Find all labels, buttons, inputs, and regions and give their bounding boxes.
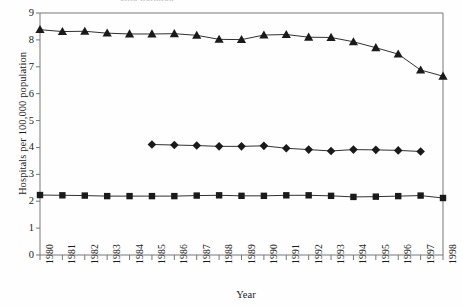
square-series-marker	[395, 193, 401, 199]
square-series-marker	[59, 192, 65, 198]
square-series-marker	[328, 193, 334, 199]
triangle-series-marker	[282, 30, 291, 38]
diamond-series-marker	[215, 142, 224, 151]
triangle-series-marker	[35, 25, 44, 33]
square-series-marker	[261, 193, 267, 199]
triangle-series-marker	[170, 29, 179, 37]
square-series-marker	[440, 195, 446, 201]
triangle-series-marker	[259, 30, 268, 38]
diamond-series-marker	[372, 146, 381, 155]
diamond-series-marker	[394, 146, 403, 155]
diamond-series-marker	[282, 144, 291, 153]
square-series-marker	[305, 192, 311, 198]
square-series-marker	[350, 194, 356, 200]
triangle-series-marker	[80, 27, 89, 35]
diamond-series-marker	[416, 147, 425, 156]
diamond-series-marker	[237, 142, 246, 151]
diamond-series-marker	[349, 145, 358, 154]
square-series-marker	[104, 193, 110, 199]
diamond-series-marker	[304, 145, 313, 154]
square-series-marker	[283, 192, 289, 198]
square-series-marker	[373, 193, 379, 199]
square-series-marker	[37, 192, 43, 198]
square-series-marker	[194, 192, 200, 198]
square-series-marker	[126, 193, 132, 199]
triangle-series-marker	[326, 33, 335, 41]
square-series-marker	[216, 192, 222, 198]
square-series-marker	[171, 193, 177, 199]
square-series-marker	[417, 192, 423, 198]
diamond-series-marker	[260, 142, 269, 151]
square-series-marker	[149, 193, 155, 199]
square-series-marker	[82, 192, 88, 198]
diamond-series-marker	[148, 140, 157, 149]
diamond-series-marker	[170, 141, 179, 150]
square-series-marker	[238, 193, 244, 199]
diamond-series-marker	[192, 141, 201, 150]
chart-figure: ollia ilorniion Hospitals per 100,000 po…	[0, 0, 462, 307]
triangle-series-marker	[125, 29, 134, 37]
diamond-series-marker	[327, 147, 336, 156]
triangle-series-marker	[416, 65, 425, 73]
triangle-series-marker	[147, 29, 156, 37]
plot-area	[0, 0, 462, 307]
